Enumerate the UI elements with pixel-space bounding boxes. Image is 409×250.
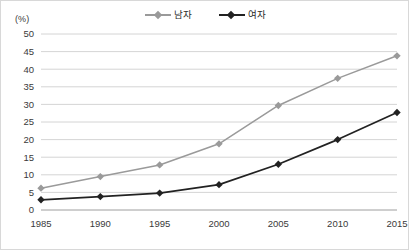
- data-point-남자-1995[interactable]: [156, 161, 163, 168]
- y-tick-0: 0: [29, 204, 34, 215]
- y-tick-15: 15: [23, 152, 34, 163]
- data-point-남자-1990[interactable]: [97, 173, 104, 180]
- x-tick-2005: 2005: [268, 218, 289, 229]
- x-tick-1985: 1985: [30, 218, 51, 229]
- y-tick-35: 35: [23, 81, 34, 92]
- data-point-남자-1985[interactable]: [37, 184, 44, 191]
- x-tick-2000: 2000: [208, 218, 229, 229]
- data-point-여자-2005[interactable]: [275, 161, 282, 168]
- y-tick-25: 25: [23, 116, 34, 127]
- y-tick-10: 10: [23, 169, 34, 180]
- y-tick-40: 40: [23, 64, 34, 75]
- y-tick-5: 5: [29, 187, 34, 198]
- data-point-남자-2005[interactable]: [275, 102, 282, 109]
- data-point-여자-1995[interactable]: [156, 189, 163, 196]
- data-point-남자-2015[interactable]: [393, 52, 400, 59]
- line-chart: (%) 남자 여자 05101520253035404550 198519901…: [0, 0, 409, 250]
- x-tick-1995: 1995: [149, 218, 170, 229]
- data-point-남자-2010[interactable]: [334, 75, 341, 82]
- x-tick-2010: 2010: [327, 218, 348, 229]
- data-series-lines: [41, 56, 397, 200]
- data-point-여자-1985[interactable]: [37, 196, 44, 203]
- x-axis-tick-labels: 1985199019952000200520102015: [30, 218, 407, 229]
- x-tick-2015: 2015: [386, 218, 407, 229]
- data-point-여자-2000[interactable]: [215, 181, 222, 188]
- y-tick-20: 20: [23, 134, 34, 145]
- plot-area: 05101520253035404550 1985199019952000200…: [1, 1, 409, 250]
- data-point-여자-2015[interactable]: [393, 109, 400, 116]
- y-tick-30: 30: [23, 99, 34, 110]
- data-point-남자-2000[interactable]: [215, 140, 222, 147]
- y-tick-45: 45: [23, 46, 34, 57]
- y-axis-tick-labels: 05101520253035404550: [23, 28, 34, 215]
- x-tick-1990: 1990: [90, 218, 111, 229]
- data-point-여자-2010[interactable]: [334, 136, 341, 143]
- y-tick-50: 50: [23, 28, 34, 39]
- data-point-여자-1990[interactable]: [97, 193, 104, 200]
